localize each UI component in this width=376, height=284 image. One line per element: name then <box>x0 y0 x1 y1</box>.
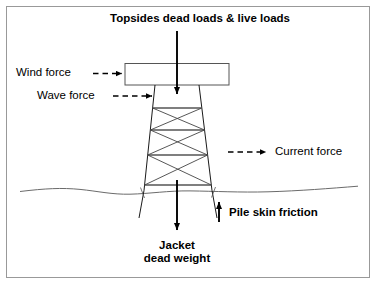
pile-skin-friction-label: Pile skin friction <box>229 206 318 219</box>
jacket-brace-bay1-a <box>153 108 205 130</box>
jacket-brace-bay3-a <box>148 155 212 185</box>
current-force-label: Current force <box>275 145 342 158</box>
jacket-dead-weight-line-2: dead weight <box>127 252 227 265</box>
jacket-leg-right <box>199 85 212 191</box>
topsides-loads-label: Topsides dead loads & live loads <box>110 12 290 25</box>
jacket-dead-weight-line-1: Jacket <box>127 239 227 252</box>
wind-force-label: Wind force <box>16 66 71 79</box>
seabed-mudline <box>20 186 358 194</box>
diagram-root: Topsides dead loads & live loads Wind fo… <box>0 0 376 284</box>
jacket-dead-weight-label: Jacket dead weight <box>127 239 227 265</box>
jacket-brace-bay2-b <box>148 130 205 155</box>
wave-force-label: Wave force <box>37 89 95 102</box>
jacket-leg-left <box>144 85 155 191</box>
jacket-brace-bay1-b <box>150 108 202 130</box>
figure-border <box>7 7 370 278</box>
jacket-brace-bay2-a <box>150 130 207 155</box>
